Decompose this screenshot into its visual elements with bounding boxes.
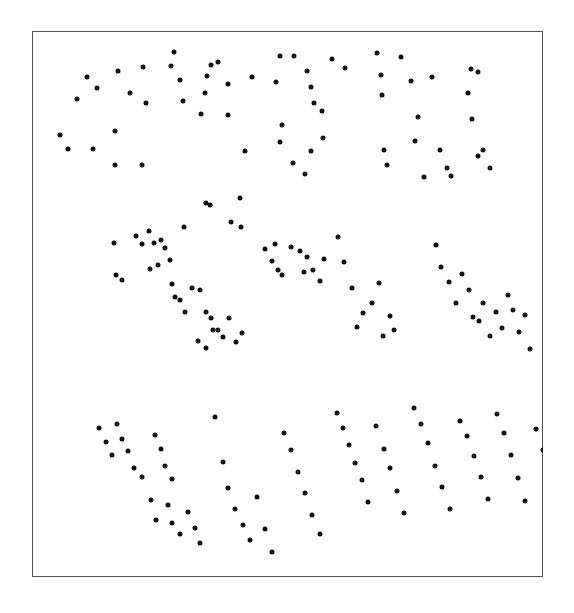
scatter-point <box>97 426 102 431</box>
scatter-point <box>470 117 475 122</box>
scatter-point <box>321 136 326 141</box>
scatter-point <box>273 242 278 247</box>
scatter-point <box>302 270 307 275</box>
scatter-point <box>120 278 125 283</box>
scatter-point <box>440 485 445 490</box>
scatter-point <box>448 507 453 512</box>
scatter-point <box>270 259 275 264</box>
scatter-point <box>270 550 275 555</box>
scatter-point <box>196 339 201 344</box>
scatter-point <box>226 486 231 491</box>
scatter-point <box>388 466 393 471</box>
scatter-point <box>126 449 131 454</box>
scatter-point <box>280 273 285 278</box>
scatter-point <box>399 55 404 60</box>
scatter-point <box>303 491 308 496</box>
scatter-point <box>209 63 214 68</box>
scatter-point <box>320 109 325 114</box>
scatter-point <box>178 298 183 303</box>
scatter-point <box>353 461 358 466</box>
plot-frame <box>32 31 543 577</box>
scatter-point <box>193 526 198 531</box>
scatter-point <box>360 478 365 483</box>
scatter-point <box>381 334 386 339</box>
scatter-point <box>208 203 213 208</box>
scatter-point <box>343 66 348 71</box>
scatter-point <box>342 260 347 265</box>
scatter-point <box>305 69 310 74</box>
scatter-point <box>113 129 118 134</box>
scatter-point <box>156 263 161 268</box>
scatter-point <box>495 412 500 417</box>
scatter-point <box>198 541 203 546</box>
scatter-point <box>282 431 287 436</box>
scatter-point <box>159 238 164 243</box>
scatter-point <box>502 431 507 436</box>
scatter-point <box>276 268 281 273</box>
scatter-point <box>361 311 366 316</box>
scatter-point <box>153 433 158 438</box>
scatter-point <box>477 319 482 324</box>
scatter-point <box>445 166 450 171</box>
scatter-point <box>385 163 390 168</box>
scatter-point <box>486 497 491 502</box>
scatter-point <box>541 448 544 453</box>
scatter-point <box>434 243 439 248</box>
scatter-point <box>392 328 397 333</box>
figure-canvas <box>0 0 574 613</box>
scatter-point <box>481 301 486 306</box>
scatter-point <box>309 149 314 154</box>
scatter-point <box>476 154 481 159</box>
scatter-point <box>350 286 355 291</box>
scatter-point <box>152 241 157 246</box>
scatter-point <box>494 310 499 315</box>
scatter-point <box>382 447 387 452</box>
scatter-point <box>516 476 521 481</box>
scatter-point <box>132 466 137 471</box>
scatter-point <box>312 101 317 106</box>
scatter-point <box>419 422 424 427</box>
scatter-point <box>476 70 481 75</box>
scatter-point <box>170 521 175 526</box>
scatter-point <box>430 75 435 80</box>
scatter-point <box>115 422 120 427</box>
scatter-point <box>409 79 414 84</box>
scatter-point <box>388 314 393 319</box>
scatter-point <box>506 293 511 298</box>
scatter-point <box>460 272 465 277</box>
scatter-point <box>472 454 477 459</box>
scatter-point <box>374 424 379 429</box>
scatter-point <box>395 489 400 494</box>
scatter-point <box>169 64 174 69</box>
scatter-point <box>330 57 335 62</box>
scatter-point <box>375 51 380 56</box>
scatter-point <box>178 532 183 537</box>
scatter-point <box>149 498 154 503</box>
scatter-point <box>104 440 109 445</box>
scatter-point <box>85 75 90 80</box>
scatter-point <box>91 147 96 152</box>
scatter-point <box>523 313 528 318</box>
scatter-point <box>263 527 268 532</box>
scatter-point <box>227 316 232 321</box>
scatter-point <box>234 340 239 345</box>
scatter-point <box>178 78 183 83</box>
scatter-point <box>226 82 231 87</box>
scatter-point <box>58 133 63 138</box>
scatter-point <box>471 315 476 320</box>
scatter-point <box>465 434 470 439</box>
scatter-point <box>310 513 315 518</box>
scatter-point <box>303 172 308 177</box>
scatter-point <box>243 149 248 154</box>
scatter-points-layer <box>32 31 543 577</box>
scatter-point <box>141 65 146 70</box>
scatter-point <box>447 280 452 285</box>
scatter-point <box>274 80 279 85</box>
scatter-point <box>183 310 188 315</box>
scatter-point <box>322 257 327 262</box>
scatter-point <box>241 523 246 528</box>
scatter-point <box>205 74 210 79</box>
scatter-point <box>66 147 71 152</box>
scatter-point <box>190 286 195 291</box>
scatter-point <box>511 308 516 313</box>
